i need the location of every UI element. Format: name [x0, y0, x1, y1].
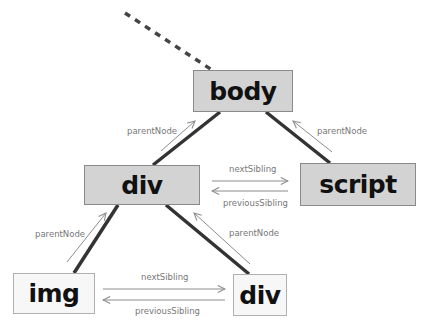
arrow-divbottom-parentnode: [194, 213, 250, 264]
node-script-label: script: [319, 172, 396, 197]
node-div-top: div: [84, 165, 200, 205]
ancestor-ellipsis-line: [125, 13, 212, 70]
edge-body-div: [153, 112, 220, 165]
edge-div-div: [166, 205, 249, 274]
label-bottom-nextsibling: nextSibling: [141, 272, 189, 282]
edge-body-script: [266, 112, 330, 163]
node-div-bottom: div: [233, 274, 287, 316]
label-top-previoussibling: previousSibling: [223, 198, 288, 208]
label-top-nextsibling: nextSibling: [229, 164, 277, 174]
label-bottom-previoussibling: previousSibling: [135, 306, 200, 316]
node-img: img: [13, 273, 95, 314]
edge-div-img: [74, 205, 118, 273]
node-script: script: [300, 163, 416, 206]
node-div-top-label: div: [121, 173, 162, 198]
label-div-parentnode: parentNode: [127, 126, 177, 136]
node-div-bottom-label: div: [239, 283, 280, 308]
node-body: body: [193, 70, 293, 112]
node-body-label: body: [209, 79, 276, 104]
dom-tree-diagram: body div script img div parentNode paren…: [0, 0, 427, 334]
label-divbottom-parentnode: parentNode: [229, 228, 279, 238]
label-script-parentnode: parentNode: [317, 126, 367, 136]
label-img-parentnode: parentNode: [35, 229, 85, 239]
node-img-label: img: [28, 281, 79, 306]
